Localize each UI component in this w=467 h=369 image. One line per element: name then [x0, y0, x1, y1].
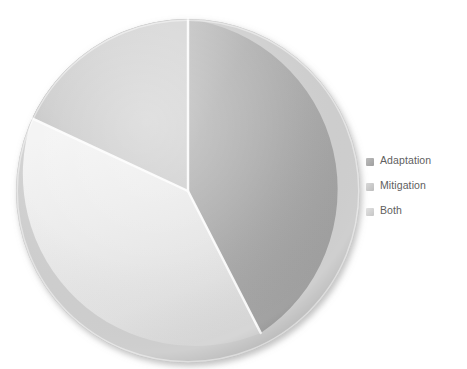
legend-item-mitigation[interactable]: Mitigation [366, 173, 466, 198]
pie-chart: Adaptation Mitigation Both [0, 0, 467, 369]
legend-item-both[interactable]: Both [366, 198, 466, 223]
pie-disc-shading [16, 19, 360, 363]
legend-item-label: Adaptation [380, 155, 431, 166]
legend-item-label: Mitigation [380, 180, 426, 191]
legend-swatch-icon [366, 158, 374, 166]
legend-item-adaptation[interactable]: Adaptation [366, 148, 466, 173]
legend-swatch-icon [366, 183, 374, 191]
legend-swatch-icon [366, 208, 374, 216]
legend-item-label: Both [380, 205, 402, 216]
chart-legend: Adaptation Mitigation Both [366, 148, 466, 223]
